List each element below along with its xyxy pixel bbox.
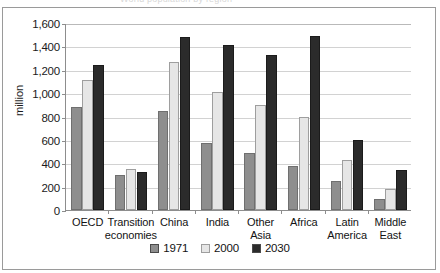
bar-1971 — [244, 153, 255, 210]
bar-group — [239, 24, 282, 210]
bar-1971 — [115, 175, 126, 210]
plot-area: 02004006008001,0001,2001,4001,600 OECDTr… — [65, 24, 411, 211]
legend-label: 2000 — [214, 242, 239, 254]
x-axis-label-line: Asia — [233, 229, 288, 242]
y-axis-tick — [62, 211, 66, 212]
x-axis-tick — [195, 210, 196, 214]
legend-swatch-2000 — [201, 244, 210, 253]
bar-2000 — [82, 80, 93, 210]
bar-group — [153, 24, 196, 210]
bar-2000 — [255, 105, 266, 210]
y-axis-tick-label: 400 — [41, 158, 60, 170]
x-axis-tick — [238, 210, 239, 214]
x-axis-label-middle-east: MiddleEast — [363, 216, 418, 241]
bar-2030 — [266, 55, 277, 210]
y-axis-tick-label: 200 — [41, 182, 60, 194]
chart-frame: million 02004006008001,0001,2001,4001,60… — [2, 7, 436, 270]
bar-2030 — [180, 37, 191, 210]
x-axis-label-line: economies — [103, 229, 158, 242]
bar-2000 — [342, 160, 353, 210]
bar-2030 — [93, 65, 104, 211]
bar-group — [326, 24, 369, 210]
bar-1971 — [71, 107, 82, 210]
bar-group — [196, 24, 239, 210]
legend-label: 1971 — [163, 242, 188, 254]
legend-item: 2030 — [252, 242, 290, 254]
bar-1971 — [288, 166, 299, 210]
bar-2000 — [126, 169, 137, 210]
legend-swatch-1971 — [150, 244, 159, 253]
bar-group — [66, 24, 109, 210]
bar-1971 — [201, 143, 212, 210]
x-axis-tick — [281, 210, 282, 214]
y-axis-tick-label: 800 — [41, 112, 60, 124]
chart-legend: 197120002030 — [3, 242, 437, 254]
y-axis-tick-label: 1,400 — [32, 41, 60, 53]
bar-2000 — [385, 189, 396, 210]
bar-2030 — [353, 140, 364, 210]
x-axis-label-line: Middle — [363, 216, 418, 229]
bar-1971 — [158, 111, 169, 210]
bar-2030 — [396, 170, 407, 210]
bar-group — [282, 24, 325, 210]
bar-group — [109, 24, 152, 210]
legend-item: 1971 — [150, 242, 188, 254]
x-axis-tick — [368, 210, 369, 214]
bar-2030 — [310, 36, 321, 210]
x-axis-tick — [325, 210, 326, 214]
bar-2030 — [137, 172, 148, 210]
bar-1971 — [374, 199, 385, 210]
x-axis-tick — [108, 210, 109, 214]
bar-group — [369, 24, 412, 210]
y-axis-tick-label: 1,600 — [32, 18, 60, 30]
bar-2030 — [223, 45, 234, 210]
y-axis-title: million — [13, 85, 25, 116]
x-axis-tick — [152, 210, 153, 214]
y-axis-tick-label: 600 — [41, 135, 60, 147]
bar-2000 — [212, 92, 223, 210]
bar-2000 — [169, 62, 180, 210]
legend-swatch-2030 — [252, 244, 261, 253]
bar-chart-figure: World population by region million 02004… — [0, 0, 440, 273]
legend-item: 2000 — [201, 242, 239, 254]
legend-label: 2030 — [265, 242, 290, 254]
figure-title: World population by region — [120, 0, 340, 4]
y-axis-tick-label: 1,200 — [32, 65, 60, 77]
bar-1971 — [331, 181, 342, 210]
bar-2000 — [299, 117, 310, 211]
x-axis-label-line: East — [363, 229, 418, 242]
y-axis-tick-label: 1,000 — [32, 88, 60, 100]
